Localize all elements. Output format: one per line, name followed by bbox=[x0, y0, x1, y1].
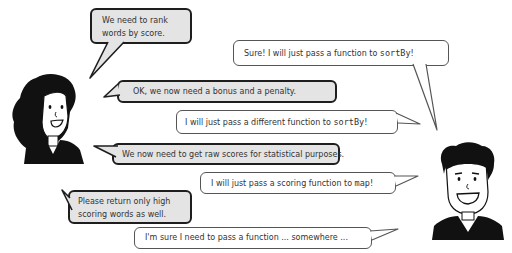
bubble-text-line: scoring words as well. bbox=[78, 208, 182, 221]
bubble-text: ! bbox=[411, 49, 414, 58]
speech-bubble-right-1: Sure! I will just pass a function to sor… bbox=[233, 40, 449, 66]
bubble-text: I will just pass a scoring function to bbox=[211, 179, 355, 188]
avatar-right-man bbox=[428, 140, 508, 240]
speech-bubble-right-4: I'm sure I need to pass a function ... s… bbox=[134, 227, 372, 249]
bubble-text-line: We need to rank bbox=[102, 14, 180, 27]
code-sortby: sortBy bbox=[380, 48, 411, 58]
speech-bubble-left-2: OK, we now need a bonus and a penalty. bbox=[117, 80, 337, 103]
bubble-text: We now need to get raw scores for statis… bbox=[122, 150, 344, 159]
speech-bubble-left-4: Please return only high scoring words as… bbox=[68, 190, 192, 224]
bubble-text-line: Please return only high bbox=[78, 195, 182, 208]
speech-bubble-left-3: We now need to get raw scores for statis… bbox=[112, 143, 340, 165]
bubble-text: I will just pass a different function to bbox=[185, 118, 333, 127]
code-map: map bbox=[355, 178, 370, 188]
bubble-text: Sure! I will just pass a function to bbox=[244, 49, 380, 58]
bubble-text: OK, we now need a bonus and a penalty. bbox=[133, 87, 296, 96]
speech-bubble-right-2: I will just pass a different function to… bbox=[176, 110, 398, 134]
bubble-text: I'm sure I need to pass a function ... s… bbox=[145, 233, 348, 242]
bubble-text: ! bbox=[370, 179, 373, 188]
code-sortby: sortBy bbox=[333, 117, 364, 127]
speech-bubble-left-1: We need to rank words by score. bbox=[90, 8, 192, 44]
bubble-text-line: words by score. bbox=[102, 27, 180, 40]
bubble-text: ! bbox=[364, 118, 367, 127]
speech-bubble-right-3: I will just pass a scoring function to m… bbox=[200, 172, 396, 194]
avatar-left-woman bbox=[8, 72, 90, 164]
